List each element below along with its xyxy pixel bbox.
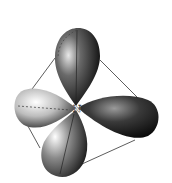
orbital-diagram: N [0,0,172,183]
right-lobe [78,96,159,138]
central-atom-label: N [73,104,81,114]
edge-bottom-right [82,140,135,164]
top-lobe [55,28,100,106]
